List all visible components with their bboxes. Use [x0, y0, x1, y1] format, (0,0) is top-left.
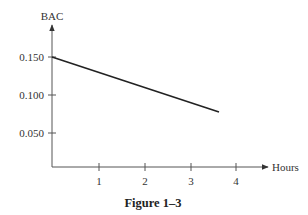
figure-caption: Figure 1–3 — [124, 196, 181, 210]
y-axis-label: BAC — [41, 10, 64, 22]
x-tick-label: 3 — [188, 175, 194, 187]
x-tick-label: 1 — [96, 175, 102, 187]
x-tick-label: 2 — [142, 175, 148, 187]
y-tick-label: 0.150 — [19, 51, 44, 63]
bac-line — [52, 57, 219, 112]
x-tick-label: 4 — [233, 175, 239, 187]
x-axis-label: Hours — [272, 161, 299, 173]
y-tick-label: 0.050 — [19, 127, 44, 139]
y-ticks: 0.150 0.100 0.050 — [19, 51, 56, 139]
bac-chart: BAC Hours 0.150 0.100 0.050 1 2 3 4 Figu… — [0, 0, 308, 215]
y-tick-label: 0.100 — [19, 89, 44, 101]
